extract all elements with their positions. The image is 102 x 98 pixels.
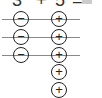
right-operand: 5 — [55, 0, 65, 11]
positive-chip: + — [51, 47, 67, 63]
operator: + — [36, 0, 47, 11]
negative-chip: − — [13, 11, 29, 27]
left-operand: 3 — [12, 0, 22, 11]
negative-chip: − — [13, 47, 29, 63]
positive-chip: + — [51, 11, 67, 27]
answer-box[interactable] — [82, 0, 92, 4]
positive-chip: + — [51, 64, 67, 80]
positive-chip: + — [51, 82, 67, 98]
equals-sign: = — [72, 0, 83, 11]
positive-chip: + — [51, 29, 67, 45]
negative-chip: − — [13, 29, 29, 45]
